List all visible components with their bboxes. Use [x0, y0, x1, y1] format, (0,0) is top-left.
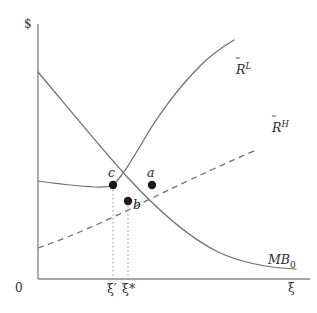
mb0-curve-label: MB0 — [268, 254, 296, 270]
rl-label-superscript: L — [245, 61, 251, 71]
mb0-curve — [38, 72, 296, 269]
tick-label-xi-star: ξ* — [122, 283, 135, 296]
xi-prime-base: ξ — [107, 281, 114, 296]
rh-curve-label: ̃RH — [272, 120, 289, 135]
mb0-label-subscript: 0 — [290, 260, 296, 270]
economics-figure: $ 0 ξ ̃RL ̃RH MB0 a b c ξ′ ξ* — [0, 0, 317, 313]
origin-label: 0 — [15, 282, 23, 294]
point-c-marker — [109, 181, 117, 189]
point-b-label: b — [133, 199, 141, 212]
y-axis-label: $ — [24, 18, 32, 30]
x-axis-label: ξ — [288, 282, 295, 294]
rl-label-base: ̃R — [236, 64, 245, 77]
rl-label-letter: R — [236, 62, 245, 77]
point-b-marker — [124, 197, 132, 205]
xi-prime-mark: ′ — [114, 281, 117, 296]
point-c-label: c — [108, 167, 115, 180]
point-a-label: a — [147, 167, 154, 180]
rl-curve — [38, 40, 234, 187]
xi-star-base: ξ — [122, 281, 129, 296]
rl-curve-label: ̃RL — [236, 62, 251, 77]
rh-label-superscript: H — [281, 119, 288, 129]
rh-label-letter: R — [272, 120, 281, 135]
rh-label-base: ̃R — [272, 122, 281, 135]
tick-label-xi-prime: ξ′ — [107, 283, 117, 296]
mb0-label-base: MB — [268, 252, 290, 267]
xi-star-mark: * — [129, 281, 135, 296]
point-a-marker — [148, 181, 156, 189]
